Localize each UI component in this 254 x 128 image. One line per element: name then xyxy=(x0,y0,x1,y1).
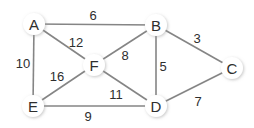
node-label: A xyxy=(29,16,39,33)
node-c: C xyxy=(221,57,243,79)
edge-weight-a-b: 6 xyxy=(89,8,96,23)
nodes-layer: ABCDEF xyxy=(22,13,243,117)
edge-weight-f-e: 16 xyxy=(50,69,64,84)
edge-a-e xyxy=(33,24,34,106)
edge-weight-b-c: 3 xyxy=(193,31,200,46)
edges-layer xyxy=(33,24,232,106)
node-f: F xyxy=(83,54,105,76)
edge-weight-c-d: 7 xyxy=(194,94,201,109)
node-label: B xyxy=(151,17,161,34)
node-label: D xyxy=(151,98,162,115)
node-b: B xyxy=(145,14,167,36)
edge-weight-e-d: 9 xyxy=(84,109,91,124)
node-e: E xyxy=(22,95,44,117)
edge-weight-a-e: 10 xyxy=(16,56,30,71)
edge-a-b xyxy=(34,24,156,25)
graph-diagram: 61210853716119 ABCDEF xyxy=(0,0,254,128)
node-label: F xyxy=(89,57,98,74)
edge-weight-a-f: 12 xyxy=(69,35,83,50)
edge-weight-b-d: 5 xyxy=(159,59,166,74)
edge-weight-f-d: 11 xyxy=(109,87,123,102)
edge-weight-b-f: 8 xyxy=(121,48,128,63)
node-label: C xyxy=(227,60,238,77)
node-label: E xyxy=(28,98,38,115)
edge-f-d xyxy=(94,65,156,106)
node-d: D xyxy=(145,95,167,117)
node-a: A xyxy=(23,13,45,35)
